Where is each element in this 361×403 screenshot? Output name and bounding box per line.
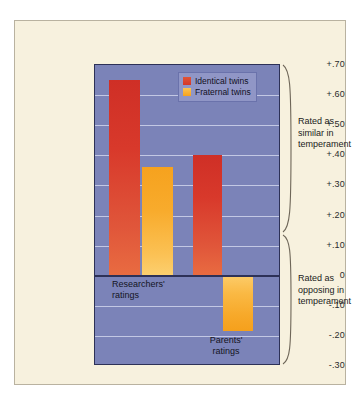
chart-panel: Correlation Between Ratings of Emotional…	[14, 20, 346, 385]
bar-parents-fraternal-twins	[223, 277, 253, 331]
y-tick-4: +.30	[299, 179, 345, 189]
bar-parents-identical-twins	[193, 155, 222, 276]
legend-item-identical-twins: Identical twins	[183, 76, 251, 86]
legend-label-identical-twins: Identical twins	[195, 76, 248, 86]
side-note-negative-line3: temperament	[298, 296, 351, 308]
red-swatch-icon	[183, 77, 191, 85]
y-tick-9: -.20	[299, 330, 345, 340]
chart-figure: Correlation Between Ratings of Emotional…	[0, 0, 361, 403]
y-axis-title-container: Correlation Between Ratings of Emotional…	[35, 64, 51, 365]
group-label-parents-line1: Parents'	[199, 335, 253, 346]
side-note-positive-line3: temperament	[298, 139, 351, 151]
side-note-negative: Rated as opposing in temperament	[298, 273, 351, 308]
side-note-negative-line1: Rated as	[298, 273, 351, 285]
bracket-positive-region	[282, 64, 294, 233]
side-note-positive-line2: similar in	[298, 128, 351, 140]
side-note-negative-line2: opposing in	[298, 285, 351, 297]
zero-line	[95, 275, 279, 277]
group-label-parents: Parents' ratings	[199, 335, 253, 357]
group-label-researchers: Researchers' ratings	[112, 279, 165, 301]
group-label-researchers-line2: ratings	[112, 290, 165, 301]
y-tick-5: +.20	[299, 210, 345, 220]
legend-item-fraternal-twins: Fraternal twins	[183, 87, 251, 97]
yellow-swatch-icon	[183, 88, 191, 96]
y-tick-0: +.70	[299, 59, 345, 69]
group-label-researchers-line1: Researchers'	[112, 279, 165, 290]
bar-researchers-fraternal-twins	[142, 167, 173, 276]
legend-label-fraternal-twins: Fraternal twins	[195, 87, 251, 97]
bracket-negative-region	[282, 234, 294, 365]
side-note-positive: Rated as similar in temperament	[298, 116, 351, 151]
y-tick-10: -.30	[299, 360, 345, 370]
y-tick-3: +.40	[299, 149, 345, 159]
side-note-positive-line1: Rated as	[298, 116, 351, 128]
chart-legend: Identical twins Fraternal twins	[178, 72, 257, 102]
plot-area: Researchers' ratings Parents' ratings Id…	[94, 64, 280, 365]
group-label-parents-line2: ratings	[199, 346, 253, 357]
y-tick-1: +.60	[299, 89, 345, 99]
bar-researchers-identical-twins	[109, 80, 140, 276]
y-tick-6: +.10	[299, 240, 345, 250]
